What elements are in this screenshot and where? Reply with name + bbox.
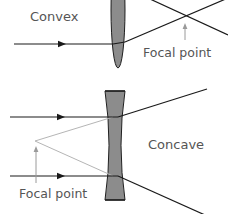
convex-focal-point-label: Focal point bbox=[143, 45, 211, 60]
concave-virtual-ray-top bbox=[35, 117, 113, 141]
concave-refracted-ray-top bbox=[118, 89, 207, 117]
concave-section: Concave Focal point bbox=[10, 89, 207, 214]
convex-label: Convex bbox=[30, 9, 79, 24]
concave-focal-point-label: Focal point bbox=[19, 186, 87, 201]
concave-lens bbox=[105, 91, 125, 200]
convex-lens bbox=[111, 0, 125, 68]
lens-diagram: Convex Focal point Concave F bbox=[0, 0, 228, 214]
convex-crossing-ray bbox=[150, 0, 228, 35]
convex-section: Convex Focal point bbox=[14, 0, 228, 68]
concave-virtual-ray-bottom bbox=[35, 141, 113, 176]
convex-refracted-ray bbox=[125, 0, 228, 42]
concave-refracted-ray-bottom bbox=[118, 176, 205, 214]
concave-label: Concave bbox=[148, 137, 204, 152]
lens-diagram-canvas: Convex Focal point Concave F bbox=[0, 0, 228, 214]
